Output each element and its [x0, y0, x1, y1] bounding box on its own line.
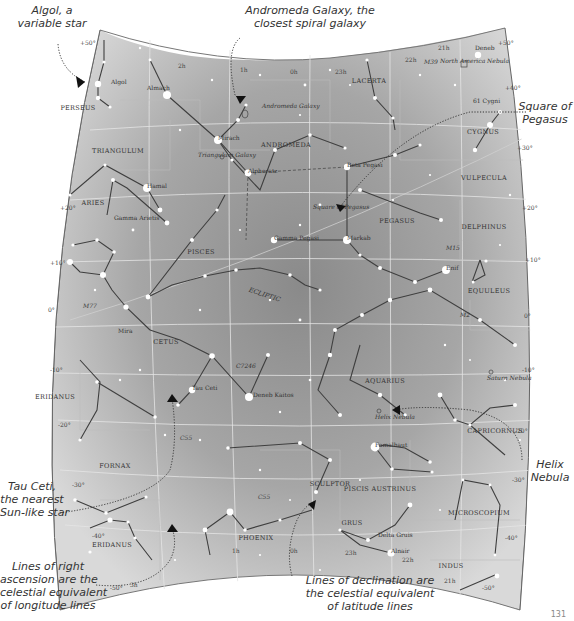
svg-text:-50°: -50°	[482, 584, 495, 591]
callout-line: Lines of declination are	[290, 574, 450, 587]
object-label: Gamma Arietis	[114, 214, 159, 221]
callout-line: celestial equivalent	[0, 586, 96, 599]
svg-text:+10°: +10°	[50, 259, 66, 266]
svg-text:0h: 0h	[290, 68, 298, 75]
svg-text:21h: 21h	[438, 44, 450, 51]
object-label: Mira	[118, 327, 133, 334]
callout-line: Sun-like star	[0, 506, 64, 519]
svg-text:0°: 0°	[48, 306, 55, 313]
constellation-label: CYGNUS	[467, 128, 499, 136]
svg-text:3h: 3h	[130, 581, 138, 588]
constellation-label: MICROSCOPIUM	[448, 509, 510, 517]
svg-text:23h: 23h	[345, 549, 357, 556]
object-label: Deneb Kaitos	[253, 391, 294, 398]
constellation-label: EQUULEUS	[468, 287, 510, 295]
object-label: Saturn Nebula	[487, 374, 532, 381]
object-label: Markab	[347, 234, 371, 241]
callout-andromeda: Andromeda Galaxy, the closest spiral gal…	[225, 4, 395, 30]
svg-text:-10°: -10°	[50, 366, 63, 373]
svg-text:+40°: +40°	[505, 84, 521, 91]
object-label: Alnair	[390, 547, 410, 554]
object-label: Gamma Pegasi	[274, 234, 319, 242]
callout-line: ascension are the	[0, 573, 96, 586]
svg-text:0°: 0°	[524, 312, 531, 319]
star-chart-page: PERSEUSTRIANGULUMANDROMEDALACERTACYGNUSV…	[0, 0, 574, 621]
object-label: Triangulum Galaxy	[198, 151, 257, 159]
object-label: Tau Ceti	[192, 384, 217, 391]
constellation-label: DELPHINUS	[461, 223, 506, 231]
constellation-label: ERIDANUS	[92, 541, 132, 549]
constellation-label: FORNAX	[99, 462, 131, 470]
object-label: Delta Gruis	[378, 531, 413, 538]
svg-text:C55: C55	[180, 434, 192, 441]
object-label: M15	[445, 244, 460, 251]
svg-text:-10°: -10°	[522, 366, 535, 373]
svg-text:23h: 23h	[335, 68, 347, 75]
object-label: Hamal	[147, 182, 167, 189]
object-label: Fomalhaut	[375, 441, 408, 448]
svg-text:+10°: +10°	[525, 256, 541, 263]
callout-line: Square of	[516, 100, 574, 113]
callout-square-of-pegasus: Square of Pegasus	[516, 100, 574, 126]
callout-helix-nebula: Helix Nebula	[526, 458, 574, 484]
object-label: Almach	[146, 84, 170, 91]
callout-line: the nearest	[0, 493, 64, 506]
object-label: M2	[459, 311, 470, 318]
object-label: Enif	[446, 264, 459, 271]
page-number: 131	[551, 610, 566, 619]
svg-text:+20°: +20°	[60, 204, 76, 211]
constellation-label: PERSEUS	[60, 104, 95, 112]
callout-line: Pegasus	[516, 113, 574, 126]
svg-text:1h: 1h	[232, 547, 240, 554]
constellation-label: AQUARIUS	[364, 377, 405, 385]
constellation-label: ANDROMEDA	[260, 141, 311, 149]
svg-text:+50°: +50°	[80, 39, 96, 46]
callout-line: variable star	[2, 17, 102, 30]
constellation-label: TRIANGULUM	[92, 147, 144, 155]
constellation-label: GRUS	[341, 519, 362, 527]
svg-text:0h: 0h	[290, 547, 298, 554]
constellation-label: VULPECULA	[460, 174, 507, 182]
object-label: 61 Cygni	[473, 97, 500, 105]
svg-text:22h: 22h	[405, 56, 417, 63]
svg-text:22h: 22h	[402, 556, 414, 563]
svg-text:-40°: -40°	[505, 534, 518, 541]
object-label: Deneb	[475, 44, 495, 51]
object-label: Alpheratz	[247, 167, 278, 175]
svg-text:C55: C55	[258, 493, 270, 500]
object-label: M39	[423, 58, 438, 65]
callout-right-ascension: Lines of right ascension are the celesti…	[0, 560, 96, 612]
constellation-label: PEGASUS	[379, 217, 415, 225]
object-label: Helix Nebula	[374, 413, 415, 420]
object-label: North America Nebula	[439, 57, 510, 64]
constellation-label: ERIDANUS	[35, 393, 75, 401]
constellation-label: ARIES	[81, 199, 105, 207]
svg-text:+50°: +50°	[498, 39, 514, 46]
callout-algol: Algol, a variable star	[2, 4, 102, 30]
object-label: Andromeda Galaxy	[261, 102, 320, 110]
callout-line: Andromeda Galaxy, the	[225, 4, 395, 17]
object-label: Mirach	[218, 134, 240, 141]
svg-text:+20°: +20°	[522, 204, 538, 211]
callout-tau-ceti: Tau Ceti, the nearest Sun-like star	[0, 480, 64, 519]
object-label: C7246	[236, 362, 256, 369]
callout-line: closest spiral galaxy	[225, 17, 395, 30]
svg-text:-30°: -30°	[72, 481, 85, 488]
callout-line: Nebula	[526, 471, 574, 484]
object-label: M77	[82, 302, 97, 309]
svg-text:2h: 2h	[178, 62, 186, 69]
constellation-label: PHOENIX	[238, 534, 273, 542]
callout-line: of longitude lines	[0, 599, 96, 612]
svg-text:1h: 1h	[240, 66, 248, 73]
callout-line: Tau Ceti,	[0, 480, 64, 493]
svg-text:-40°: -40°	[92, 532, 105, 539]
svg-text:-30°: -30°	[512, 476, 525, 483]
callout-line: of latitude lines	[290, 600, 450, 613]
callout-declination: Lines of declination are the celestial e…	[290, 574, 450, 613]
svg-text:-50°: -50°	[110, 584, 123, 591]
object-label: Algol	[110, 78, 127, 86]
callout-line: Algol, a	[2, 4, 102, 17]
star-map: PERSEUSTRIANGULUMANDROMEDALACERTACYGNUSV…	[0, 0, 574, 621]
callout-line: Helix	[526, 458, 574, 471]
constellation-label: INDUS	[439, 562, 464, 570]
